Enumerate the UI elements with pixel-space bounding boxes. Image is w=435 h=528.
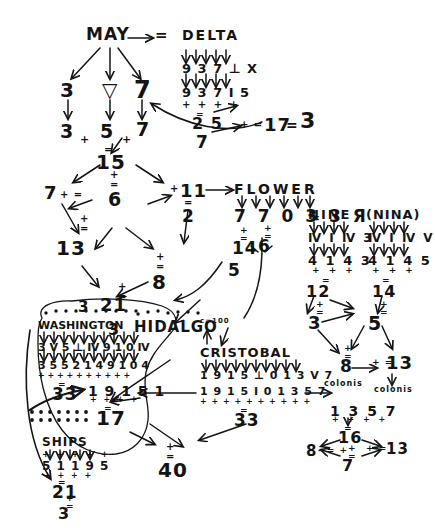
node-cristobal-digits: 1 9 1 5 I 0 1 3 5 7 (200, 386, 326, 397)
node-7-left: 7 (44, 184, 58, 202)
node-delta-reduce: 7 (196, 134, 209, 151)
node-may-word: MAY (86, 26, 130, 43)
colonis-right-label: colonis (374, 386, 413, 394)
may-digit-3: 7 (136, 120, 150, 139)
node-nine-row1: Ⅳ I Ⅳ 3 (308, 232, 374, 244)
node-13-eq: = (80, 224, 89, 234)
node-nine-ops: + + + (312, 266, 356, 275)
node-delta-row2: 9 3 7 I 5 (182, 86, 250, 99)
node-19151-sum: 17 (96, 408, 126, 428)
node-ships-ops-top: + + + + + (42, 450, 110, 459)
node-washington-sum: 33 (52, 386, 78, 403)
node-ships-reduce: 3 (58, 506, 70, 522)
node-delta-chain-eq: = (286, 118, 299, 132)
may-digit-1: 3 (60, 122, 74, 141)
node-1357-reduce: 7 (342, 458, 354, 474)
node-11-reduce: 2 (182, 208, 195, 225)
node-1357-right-op: + = (366, 444, 387, 453)
colonis-right-value: 13 (386, 354, 413, 372)
node-nina-sum: 14 (372, 284, 396, 300)
node-15-reduce: 6 (108, 190, 122, 209)
node-washington-word: WASHINGTON (38, 320, 123, 331)
node-nine-sum: 12 (306, 284, 330, 300)
node-flower-left-sum: 14 (232, 240, 258, 257)
node-8-value: 8 (152, 272, 167, 292)
node-nina-word: (NINA) (366, 208, 421, 221)
node-ships-ops: + + + + (44, 472, 93, 480)
node-flower-word: FLOWER (234, 182, 318, 196)
node-21-value: 21 (100, 296, 127, 314)
may-letter-1: 3 (60, 80, 75, 100)
node-cristobal-sum: 33 (234, 412, 260, 429)
node-1357-ops: + + + + (332, 416, 388, 424)
node-nine-word: NINE (308, 208, 351, 221)
may-letter-3: 7 (134, 78, 152, 102)
node-flower-left-reduce: 5 (228, 262, 241, 279)
washington-top-value: 3 (78, 300, 89, 315)
cristobal-note: c=100 (200, 318, 230, 325)
node-delta-word: DELTA (182, 28, 239, 42)
may-op-2: + (122, 134, 132, 145)
node-cristobal-ops: + + + + + + + + + + (200, 398, 311, 406)
may-letter-2: ▽ (102, 80, 118, 100)
node-cristobal-row1: 1 9 1 5 ⊥ 0 1 3 Ⅴ 7 (200, 370, 333, 381)
node-nina-ops: + + + (372, 266, 416, 275)
may-equals-sign: = (155, 28, 169, 43)
may-digit-2: 5 (100, 122, 114, 141)
node-ships-word: SHIPS (42, 436, 88, 448)
node-washington-digits: 3 5 5 2 1 4 9 1 0 4 (38, 360, 149, 371)
node-nine-reduce: 3 (308, 314, 322, 332)
node-13-value: 13 (56, 238, 86, 258)
node-7-left-op: + = (60, 190, 83, 200)
node-flower-mid-reduce: 6 (258, 238, 271, 255)
node-washington-row1: 3 Ⅴ 5 ⊥ Ⅳ 9 1 0 Ⅳ (38, 342, 150, 353)
node-delta-chain-result: 3 (300, 110, 316, 132)
may-op-1: + (80, 134, 90, 145)
node-1357-left-value: 8 (306, 444, 317, 459)
node-40-value: 40 (158, 460, 188, 480)
node-delta-chain-op: + = (240, 120, 263, 130)
node-1357-right-value: 13 (386, 442, 409, 457)
node-delta-sum: 2 5 (192, 116, 223, 132)
node-delta-ops: + + + + (182, 100, 240, 110)
node-19151-ops: + + + + (90, 396, 139, 404)
node-nina-row1: Ⅳ I Ⅳ Ⅴ (368, 232, 435, 244)
node-nina-reduce: 5 (368, 314, 382, 333)
node-washington-ops: + + + + + + + + + + (38, 372, 130, 380)
node-delta-row1: 9 3 7 ⊥ Ⅹ (182, 62, 258, 75)
colonis-left-value: 8 (340, 358, 353, 375)
node-11-op: + (170, 184, 179, 194)
node-1357-left-op: - = + (318, 446, 348, 455)
node-cristobal-word: CRISTOBAL (200, 346, 291, 359)
